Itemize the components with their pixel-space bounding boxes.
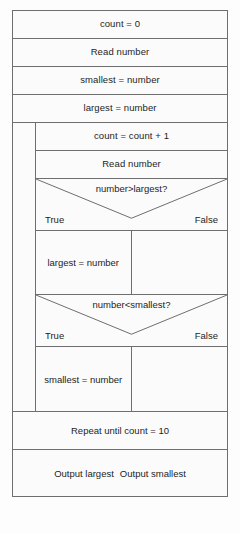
process-label: count = 0 <box>100 19 140 29</box>
process-block-init-largest: largest = number <box>13 95 227 123</box>
process-block-read-first: Read number <box>13 39 227 67</box>
loop-gutter <box>13 123 36 411</box>
branch-false-smallest <box>132 347 228 411</box>
loop-condition-label: Repeat until count = 10 <box>71 425 169 436</box>
nassi-shneiderman-diagram: count = 0 Read number smallest = number … <box>12 10 228 497</box>
decision-smallest-test: number<smallest? True False <box>36 295 227 347</box>
branch-true-largest: largest = number <box>36 231 132 294</box>
decision-wedge-icon <box>36 295 227 346</box>
process-block-increment-count: count = count + 1 <box>36 123 227 151</box>
branch-false-largest <box>132 231 228 294</box>
output-smallest-label: Output smallest <box>120 468 186 479</box>
loop-footer-condition: Repeat until count = 10 <box>13 412 227 450</box>
process-label: smallest = number <box>80 75 160 85</box>
process-label: largest = number <box>83 103 156 113</box>
output-block: Output largest Output smallest <box>13 450 227 496</box>
loop-body: count = count + 1 Read number number>lar… <box>36 123 227 411</box>
process-label: count = count + 1 <box>94 131 169 141</box>
process-label: Read number <box>102 159 161 169</box>
branch-true-smallest: smallest = number <box>36 347 132 411</box>
decision-smallest-branches: smallest = number <box>36 347 227 411</box>
decision-largest-test: number>largest? True False <box>36 179 227 231</box>
diagram-canvas: count = 0 Read number smallest = number … <box>0 0 240 534</box>
process-block-init-count: count = 0 <box>13 11 227 39</box>
decision-wedge-icon <box>36 179 227 230</box>
output-largest-label: Output largest <box>54 468 114 479</box>
process-block-init-smallest: smallest = number <box>13 67 227 95</box>
process-label: largest = number <box>47 257 119 268</box>
repeat-until-loop: count = count + 1 Read number number>lar… <box>13 123 227 412</box>
decision-largest-branches: largest = number <box>36 231 227 295</box>
process-label: Read number <box>91 47 150 57</box>
process-label: smallest = number <box>44 374 122 385</box>
process-block-read-number: Read number <box>36 151 227 179</box>
